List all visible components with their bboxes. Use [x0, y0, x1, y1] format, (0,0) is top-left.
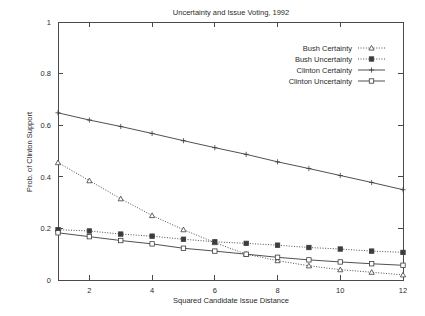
y-tick-label: 0: [47, 276, 51, 285]
series-marker: [401, 263, 405, 267]
x-tick-label: 8: [275, 286, 279, 295]
legend-label-0: Bush Certainty: [303, 44, 352, 53]
legend-sample-marker-1: [369, 57, 373, 61]
uncertainty-issue-voting-chart: Uncertainty and Issue Voting, 1992 00.20…: [0, 0, 425, 316]
series-marker: [56, 231, 60, 235]
x-tick-label: 6: [213, 286, 217, 295]
series-marker: [213, 240, 217, 244]
y-tick-label: 0.4: [41, 173, 51, 182]
series-marker: [244, 252, 248, 256]
x-tick-label: 2: [87, 286, 91, 295]
series-marker: [150, 242, 154, 246]
x-tick-label: 12: [399, 286, 407, 295]
x-tick-label: 10: [336, 286, 344, 295]
series-marker: [213, 249, 217, 253]
y-tick-label: 0.8: [41, 69, 51, 78]
y-tick-label: 0.2: [41, 224, 51, 233]
series-marker: [150, 234, 154, 238]
series-marker: [338, 260, 342, 264]
series-marker: [244, 241, 248, 245]
series-marker: [119, 238, 123, 242]
series-marker: [307, 245, 311, 249]
y-tick-label: 0.6: [41, 121, 51, 130]
series-marker: [181, 237, 185, 241]
legend-label-3: Clinton Uncertainty: [289, 77, 353, 86]
series-marker: [181, 246, 185, 250]
chart-page: Uncertainty and Issue Voting, 1992 00.20…: [0, 0, 425, 316]
series-marker: [369, 249, 373, 253]
chart-background: [0, 0, 425, 316]
legend-sample-marker-3: [369, 79, 373, 83]
series-marker: [275, 255, 279, 259]
legend-label-2: Clinton Certainty: [297, 66, 353, 75]
series-marker: [338, 247, 342, 251]
series-marker: [87, 229, 91, 233]
series-marker: [401, 250, 405, 254]
series-marker: [87, 234, 91, 238]
x-tick-label: 4: [150, 286, 154, 295]
legend-label-1: Bush Uncertainty: [295, 55, 352, 64]
series-marker: [275, 243, 279, 247]
series-marker: [369, 262, 373, 266]
series-marker: [119, 232, 123, 236]
x-axis-title: Squared Candidate Issue Distance: [173, 296, 289, 305]
series-marker: [307, 258, 311, 262]
y-axis-title: Prob. of Clinton Support: [25, 111, 34, 192]
chart-title: Uncertainty and Issue Voting, 1992: [173, 8, 289, 17]
y-tick-label: 1: [47, 18, 51, 27]
